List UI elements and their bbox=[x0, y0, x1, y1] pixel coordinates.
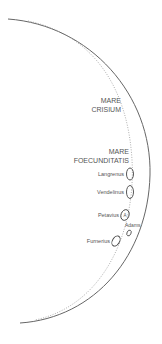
crater-label-adams: Adams bbox=[125, 222, 141, 228]
crater-label-petavius: Petavius bbox=[98, 212, 119, 218]
crater-furnerius bbox=[110, 234, 122, 247]
crater-petavius-marker: A bbox=[123, 213, 126, 218]
crater-label-vendelinus: Vendelinus bbox=[97, 189, 124, 195]
mare-crisium-label: MARE bbox=[101, 97, 122, 104]
crater-langrenus bbox=[127, 168, 134, 180]
mare-foecunditatis-label-2: FOECUNDITATIS bbox=[74, 157, 130, 164]
crater-adams bbox=[126, 229, 132, 236]
crater-label-langrenus: Langrenus bbox=[98, 171, 124, 177]
crater-vendelinus bbox=[127, 186, 134, 199]
moon-limb bbox=[8, 19, 150, 323]
moon-crescent-diagram: MARE CRISIUM MARE FOECUNDITATIS Langrenu… bbox=[0, 0, 162, 344]
mare-foecunditatis-label: MARE bbox=[109, 148, 130, 155]
crater-label-furnerius: Furnerius bbox=[87, 238, 110, 244]
mare-crisium-label-2: CRISIUM bbox=[91, 106, 121, 113]
